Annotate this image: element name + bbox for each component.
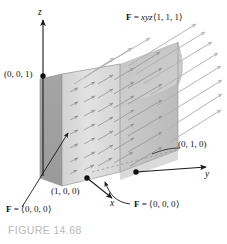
field-formula-equals: = [132, 12, 142, 22]
field-formula-scalar: xyz [141, 12, 153, 22]
zero-right-components: ⟨0, 0, 0⟩ [149, 199, 180, 209]
zero-field-left-label: F = ⟨0, 0, 0⟩ [6, 205, 52, 214]
point-100-label: (1, 0, 0) [51, 187, 80, 196]
leader-line-zero-right [105, 182, 130, 204]
y-axis-label: y [205, 170, 209, 180]
zero-field-right-label: F = ⟨0, 0, 0⟩ [134, 200, 180, 209]
figure-container: z x y (0, 0, 1) (1, 0, 0) (0, 1, 0) F = … [0, 0, 227, 244]
x-axis-label: x [110, 199, 114, 209]
field-formula-components: ⟨1, 1, 1⟩ [153, 12, 184, 22]
zero-right-equals: = [140, 199, 150, 209]
zero-left-equals: = [12, 204, 22, 214]
point-010-dot [133, 169, 138, 174]
field-formula-label: F = xyz⟨1, 1, 1⟩ [126, 13, 183, 22]
x-axis [87, 178, 112, 198]
point-100-dot [84, 175, 89, 180]
point-001-label: (0, 0, 1) [4, 70, 33, 79]
cube-front-face [62, 64, 120, 186]
figure-caption: FIGURE 14.68 [8, 224, 82, 236]
point-001-dot [40, 73, 45, 78]
zero-left-components: ⟨0, 0, 0⟩ [21, 204, 52, 214]
z-axis-label: z [38, 8, 42, 18]
point-010-label: (0, 1, 0) [178, 140, 207, 149]
